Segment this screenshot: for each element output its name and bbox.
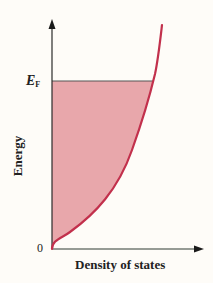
y-axis-arrow-icon	[49, 19, 56, 29]
fermi-energy-label: EF	[26, 73, 40, 89]
x-axis-label: Density of states	[75, 257, 165, 273]
occupied-states-fill	[52, 81, 153, 249]
x-axis-arrow-icon	[194, 246, 204, 253]
origin-label: 0	[37, 241, 43, 256]
density-of-states-diagram	[0, 0, 213, 283]
y-axis-label: Energy	[10, 126, 26, 186]
